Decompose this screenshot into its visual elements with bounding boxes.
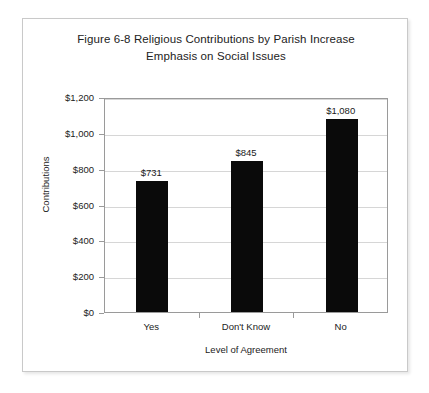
bar [231,161,263,312]
y-axis-tick-label: $1,200 [34,92,94,103]
x-axis-tick-mark [199,313,200,318]
bar-value-label: $731 [111,167,191,178]
x-axis-category-label: No [291,321,391,332]
y-axis-tick-label: $1,000 [34,128,94,139]
figure-frame: Figure 6-8 Religious Contributions by Pa… [22,18,408,372]
x-axis-tick-mark [293,313,294,318]
bar-value-label: $1,080 [301,105,381,116]
bar [326,119,358,313]
y-axis-tick-mark [99,277,104,278]
y-axis-tick-mark [99,98,104,99]
y-axis-tick-label: $800 [34,164,94,175]
y-axis-title: Contributions [40,130,51,240]
x-axis-category-label: Don't Know [196,321,296,332]
y-axis-tick-mark [99,313,104,314]
bar-value-label: $845 [206,147,286,158]
chart-title-line-1: Figure 6-8 Religious Contributions by Pa… [23,31,409,48]
bar [136,181,168,312]
gridline [105,99,387,100]
y-axis-tick-mark [99,134,104,135]
plot-area [104,98,388,313]
y-axis-tick-label: $400 [34,235,94,246]
chart-title-line-2: Emphasis on Social Issues [23,48,409,65]
chart-title: Figure 6-8 Religious Contributions by Pa… [23,31,409,65]
x-axis-title: Level of Agreement [104,344,388,355]
y-axis-tick-label: $200 [34,271,94,282]
y-axis-tick-label: $0 [34,307,94,318]
y-axis-tick-mark [99,241,104,242]
x-axis-category-label: Yes [101,321,201,332]
y-axis-tick-mark [99,206,104,207]
y-axis-tick-label: $600 [34,200,94,211]
y-axis-tick-mark [99,170,104,171]
